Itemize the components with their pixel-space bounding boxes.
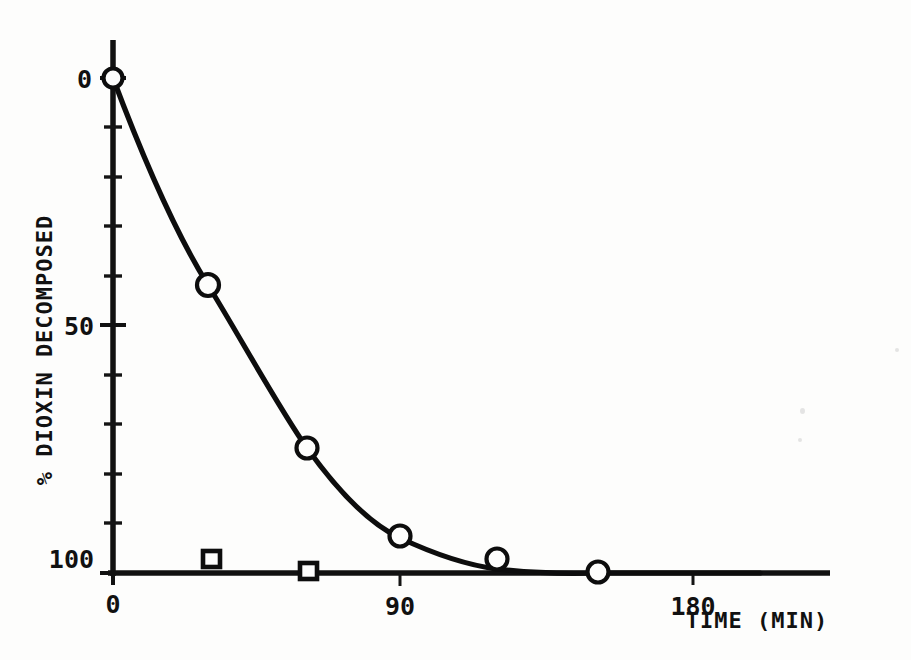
x-tick-label-0: 0 (105, 590, 120, 619)
y-tick-label-50: 50 (64, 312, 94, 341)
chart-figure: 0 50 100 0 90 180 TIME (MIN) % DIOXIN DE… (0, 0, 911, 660)
data-point-circle (487, 549, 508, 570)
x-axis-title: TIME (MIN) (686, 608, 828, 633)
y-tick-label-100: 100 (49, 545, 94, 574)
chart-plot-area: 0 50 100 0 90 180 TIME (MIN) % DIOXIN DE… (0, 0, 911, 660)
data-point-circle (588, 562, 609, 583)
data-point-square (300, 563, 317, 579)
scan-artifact-speck (800, 408, 805, 414)
data-point-circle (197, 274, 219, 296)
x-tick-label-90: 90 (385, 592, 415, 621)
data-point-circle (297, 438, 318, 459)
y-tick-label-0: 0 (77, 65, 92, 94)
y-axis-title: % DIOXIN DECOMPOSED (32, 215, 57, 486)
data-point-square (203, 551, 220, 567)
data-point-circle (104, 69, 123, 88)
scan-artifact-speck (798, 438, 802, 442)
data-point-circle (390, 526, 411, 547)
decomposition-curve (113, 78, 760, 573)
scan-artifact-speck (895, 348, 899, 352)
